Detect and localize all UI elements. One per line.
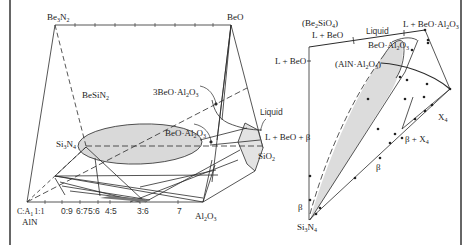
label-besin2: BeSiN2 — [82, 90, 109, 101]
label-liquid-left: Liquid — [260, 107, 283, 117]
label-l-beo-top: L + BeO — [312, 30, 344, 40]
label-3beo-al2o3: 3BeO·Al2O3 — [153, 87, 199, 98]
label-beo-al2o3-right: BeO·Al2O3 — [368, 40, 409, 51]
ratio-7: 7 — [177, 206, 182, 216]
label-be3n2: Be3N2 — [47, 12, 70, 23]
ratio-6-7: 6:7 — [76, 206, 88, 216]
label-beta-mid: β — [376, 162, 381, 172]
ratio-3-6: 3:6 — [137, 206, 149, 216]
label-x4: X4 — [438, 112, 448, 123]
ratio-0-9: 0:9 — [61, 206, 73, 216]
label-beta-left: β — [298, 202, 303, 212]
label-liquid-right: Liquid — [366, 26, 389, 36]
ratio-4-5: 4:5 — [105, 206, 117, 216]
label-si3n4-right: Si3N4 — [297, 222, 317, 233]
ratio-5-6: 5:6 — [88, 206, 100, 216]
label-beta-x4: β + X4 — [405, 134, 429, 145]
left-diagram — [27, 23, 266, 204]
label-al2o3: Al2O3 — [195, 211, 217, 222]
label-beo-al2o3: BeO·Al2O3 — [165, 128, 206, 139]
label-l-beo-al2o3: L + BeO·Al2O3 — [403, 19, 459, 30]
edge-be3n2-aln — [27, 25, 55, 202]
label-aln: AlN — [22, 217, 38, 227]
label-l-beo-side: L + BeO — [275, 56, 307, 66]
label-l-beo-beta: L + BeO + β — [265, 132, 311, 142]
left-diagram-labels: Be3N2 BeO BeSiN2 3BeO·Al2O3 BeO·Al2O3 Li… — [17, 12, 283, 227]
label-be2sio4: (Be2SiO4) — [302, 18, 338, 29]
phase-diagram-figure: Be3N2 BeO BeSiN2 3BeO·Al2O3 BeO·Al2O3 Li… — [0, 0, 473, 245]
label-sio2: SiO2 — [258, 151, 275, 162]
label-ca: C:A11:1 — [17, 207, 45, 217]
label-si3n4-left: Si3N4 — [56, 139, 76, 150]
label-beo: BeO — [227, 12, 244, 22]
label-aln-al2o3: (AlN·Al2O3) — [335, 59, 381, 70]
figure-frame: Be3N2 BeO BeSiN2 3BeO·Al2O3 BeO·Al2O3 Li… — [0, 0, 473, 245]
